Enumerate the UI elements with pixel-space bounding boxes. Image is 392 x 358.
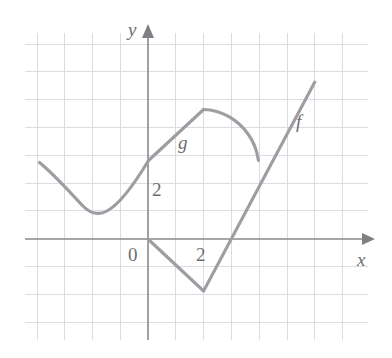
curve-g-label: g — [178, 133, 188, 152]
y-axis-label: y — [128, 20, 136, 39]
graph-canvas — [0, 0, 392, 358]
x-tick-label-2: 2 — [196, 245, 206, 264]
curve-g — [40, 110, 259, 214]
curve-f-label: f — [296, 112, 301, 131]
x-axis-label: x — [357, 250, 365, 269]
y-tick-label-2: 2 — [152, 180, 162, 199]
math-graph-figure: y x f g 0 2 2 — [0, 0, 392, 358]
grid-lines — [25, 33, 368, 340]
origin-tick-label: 0 — [128, 245, 138, 264]
